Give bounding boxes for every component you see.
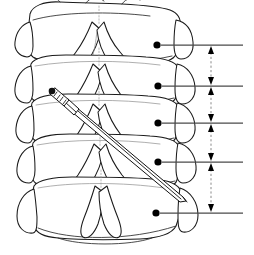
marker-dot-3[interactable] (154, 119, 161, 126)
marker-dot-1[interactable] (153, 41, 160, 48)
marker-dot-5[interactable] (152, 209, 159, 216)
needle-end-cap (49, 88, 56, 95)
spine-illustration (0, 0, 254, 255)
marker-dot-4[interactable] (154, 158, 161, 165)
marker-dot-2[interactable] (154, 82, 161, 89)
anatomical-figure: Posterior view of lumbar spine with perc… (0, 0, 254, 255)
